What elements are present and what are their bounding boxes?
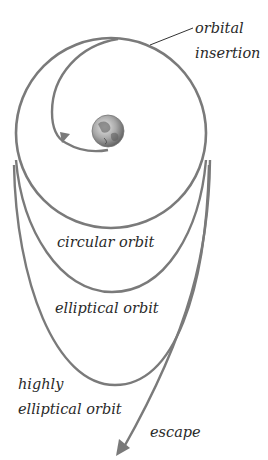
insertion-leader-line (150, 28, 193, 45)
elliptical-orbit-path (16, 160, 206, 292)
label-escape: escape (150, 423, 201, 441)
label-circular-orbit: circular orbit (57, 233, 154, 251)
label-highly-elliptical-line2: elliptical orbit (18, 400, 122, 418)
earth-globe-icon (92, 115, 124, 147)
label-highly-elliptical-line1: highly (18, 375, 63, 393)
label-elliptical-orbit: elliptical orbit (55, 299, 159, 317)
label-orbital-insertion-line1: orbital (195, 19, 244, 37)
label-orbital-insertion-line2: insertion (195, 44, 260, 62)
